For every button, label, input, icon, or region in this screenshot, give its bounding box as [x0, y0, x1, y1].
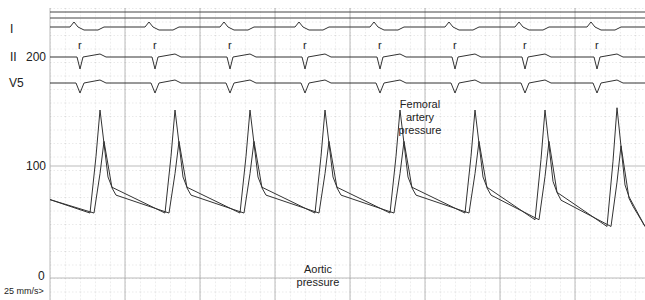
- lead-label-i: I: [10, 23, 13, 35]
- grid-minor: [50, 8, 645, 300]
- femoral-label-line2: artery: [390, 111, 450, 124]
- femoral-label-line3: pressure: [390, 124, 450, 137]
- pressure-ecg-tracing: rrrrrrrr: [0, 0, 645, 300]
- femoral-artery-pressure-label: Femoral artery pressure: [390, 98, 450, 137]
- aortic-label-line2: pressure: [288, 276, 348, 289]
- svg-text:r: r: [78, 39, 82, 51]
- y-tick-0: 0: [38, 270, 45, 282]
- y-tick-200: 200: [26, 51, 46, 63]
- svg-text:r: r: [153, 39, 157, 51]
- lead-label-ii: II: [10, 51, 17, 63]
- paper-speed-label: 25 mm/s>: [4, 287, 44, 296]
- y-tick-100: 100: [26, 160, 46, 172]
- svg-text:r: r: [453, 39, 457, 51]
- lead-label-v5: V5: [9, 77, 24, 89]
- aortic-label-line1: Aortic: [288, 263, 348, 276]
- svg-text:r: r: [228, 39, 232, 51]
- svg-text:r: r: [378, 39, 382, 51]
- svg-text:r: r: [303, 39, 307, 51]
- aortic-pressure-label: Aortic pressure: [288, 263, 348, 289]
- svg-text:r: r: [523, 39, 527, 51]
- svg-text:r: r: [595, 39, 599, 51]
- femoral-label-line1: Femoral: [390, 98, 450, 111]
